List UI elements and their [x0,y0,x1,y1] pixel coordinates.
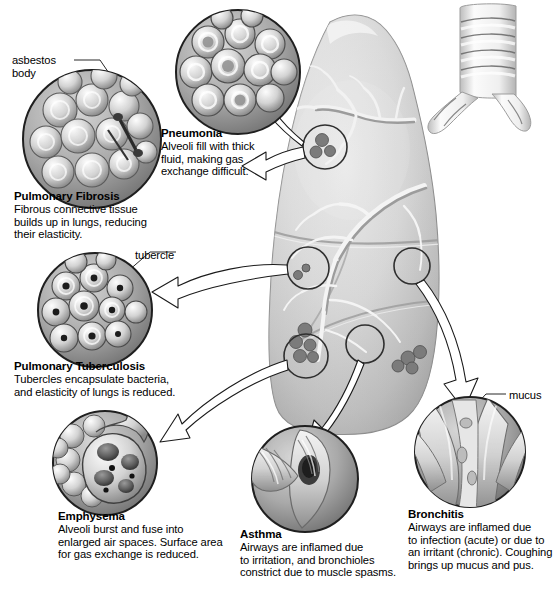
caption-title: Asthma [240,528,415,541]
caption-pulmonary-tuberculosis: Pulmonary Tuberculosis Tubercles encapsu… [14,360,214,398]
inset-emphysema [48,410,157,515]
inset-asthma [249,426,358,532]
caption-body: Fibrous connective tissue builds up in l… [14,203,184,241]
label-asbestos-body: asbestos body [12,54,92,79]
arrow-to-tuberculosis [152,264,288,308]
caption-title: Bronchitis [408,508,560,521]
lung-disease-diagram: asbestos body tubercle mucus Pulmonary F… [0,0,560,590]
caption-emphysema: Emphysema Alveoli burst and fuse into en… [58,510,243,561]
caption-title: Pulmonary Fibrosis [14,190,184,203]
caption-asthma: Asthma Airways are inflamed due to irrit… [240,528,415,579]
label-mucus: mucus [509,389,559,402]
caption-body: Airways are inflamed due to infection (a… [408,521,560,571]
caption-pneumonia: Pneumonia Alveoli fill with thick fluid,… [161,127,301,178]
inset-pulmonary-fibrosis [23,63,161,208]
caption-body: Alveoli burst and fuse into enlarged air… [58,523,243,561]
caption-title: Pulmonary Tuberculosis [14,360,214,373]
caption-body: Airways are inflamed due to irritation, … [240,541,415,579]
inset-pulmonary-tuberculosis [38,250,152,367]
inset-pneumonia [176,5,300,134]
caption-bronchitis: Bronchitis Airways are inflamed due to i… [408,508,560,571]
illustration-layer [0,0,560,590]
caption-body: Alveoli fill with thick fluid, making ga… [161,140,301,178]
trachea [428,4,531,134]
caption-body: Tubercles encapsulate bacteria, and elas… [14,373,214,398]
caption-title: Pneumonia [161,127,301,140]
inset-bronchitis [406,397,532,512]
caption-title: Emphysema [58,510,243,523]
label-tubercle: tubercle [135,249,205,262]
caption-pulmonary-fibrosis: Pulmonary Fibrosis Fibrous connective ti… [14,190,184,241]
